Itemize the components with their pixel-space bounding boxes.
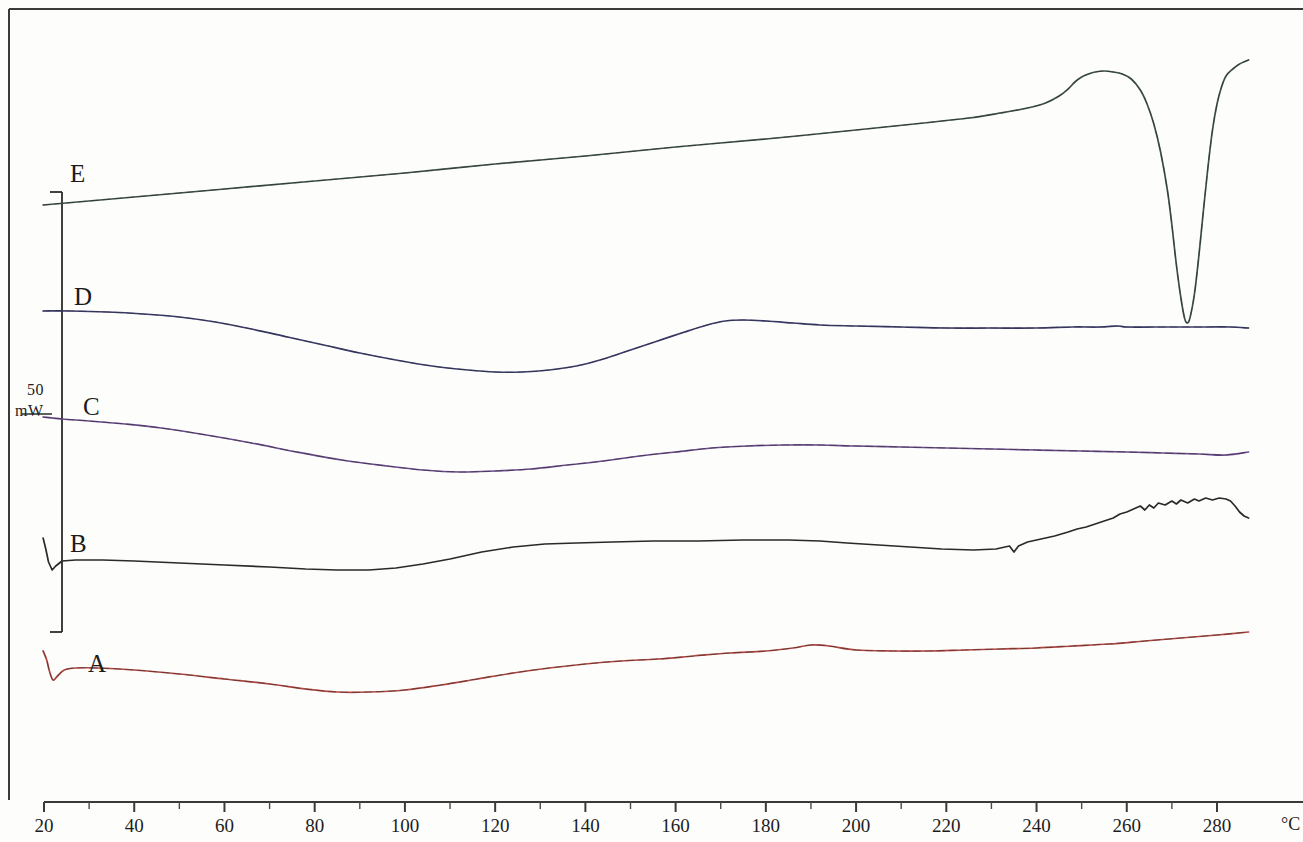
curve-e: [43, 60, 1248, 323]
x-axis-tick-label: 60: [215, 815, 234, 837]
x-axis-tick-label: 260: [1113, 815, 1142, 837]
curve-label-e: E: [70, 160, 86, 188]
curves-layer: [43, 60, 1248, 692]
x-axis-unit-label: °C: [1281, 814, 1300, 835]
curve-a-ink-overlay: [43, 632, 1248, 692]
curve-label-c: C: [83, 393, 100, 421]
x-axis-tick-label: 20: [35, 815, 54, 837]
plot-canvas: [0, 0, 1303, 842]
x-axis-tick-label: 80: [305, 815, 324, 837]
curve-a: [43, 632, 1248, 692]
curve-d: [43, 311, 1248, 372]
scale-bar-value: 50: [27, 381, 44, 399]
scale-bar-unit: mW: [15, 402, 44, 420]
curve-c-ink-overlay: [43, 417, 1248, 472]
x-axis: [44, 802, 1303, 812]
x-axis-tick-label: 240: [1022, 815, 1051, 837]
x-axis-tick-label: 40: [125, 815, 144, 837]
x-axis-tick-label: 140: [571, 815, 600, 837]
curve-d-ink-overlay: [43, 311, 1248, 372]
x-axis-tick-label: 160: [661, 815, 690, 837]
curve-label-b: B: [70, 530, 87, 558]
dsc-thermogram-figure: A B C D E 50 mW °C 204060801001201401601…: [0, 0, 1303, 842]
curve-e-ink-overlay: [43, 60, 1248, 323]
curve-b: [43, 498, 1248, 570]
x-axis-tick-label: 180: [752, 815, 781, 837]
plot-frame: [9, 9, 1303, 800]
x-axis-tick-label: 200: [842, 815, 871, 837]
x-axis-tick-label: 100: [391, 815, 420, 837]
curve-label-d: D: [74, 283, 93, 311]
x-axis-tick-label: 220: [932, 815, 961, 837]
x-axis-tick-label: 120: [481, 815, 510, 837]
curve-c: [43, 417, 1248, 472]
x-axis-tick-label: 280: [1203, 815, 1232, 837]
curve-label-a: A: [88, 650, 107, 678]
